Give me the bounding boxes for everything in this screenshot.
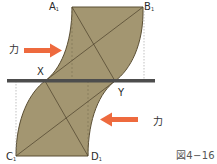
shear-plane-bar <box>7 79 155 83</box>
force-label-lower: 力 <box>153 117 163 127</box>
label-a1: A1 <box>49 2 59 12</box>
label-y-letter: Y <box>118 87 124 98</box>
label-c1-sub: 1 <box>13 156 16 162</box>
label-d1: D1 <box>91 152 102 162</box>
label-y: Y <box>118 88 124 98</box>
force-label-upper: 力 <box>9 45 19 55</box>
label-a1-sub: 1 <box>56 6 59 12</box>
label-x: X <box>37 67 44 77</box>
label-a1-letter: A <box>49 1 56 12</box>
label-b1-sub: 1 <box>151 6 154 12</box>
label-b1: B1 <box>144 2 154 12</box>
force-arrow-left <box>100 113 138 127</box>
label-b1-letter: B <box>144 1 151 12</box>
force-arrow-right <box>24 44 62 58</box>
label-d1-sub: 1 <box>99 156 102 162</box>
figure-caption: 図4−16 <box>176 151 215 161</box>
shear-deformation-diagram <box>0 0 217 164</box>
label-x-letter: X <box>37 66 44 77</box>
label-c1-letter: C <box>6 151 13 162</box>
label-d1-letter: D <box>91 151 99 162</box>
label-c1: C1 <box>6 152 16 162</box>
